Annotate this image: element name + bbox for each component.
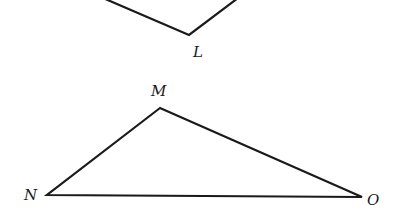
vertex-label-m: M bbox=[150, 82, 167, 100]
vertex-label-o: O bbox=[367, 191, 379, 209]
geometry-figure: L M N O bbox=[0, 0, 410, 220]
partial-shape-edges bbox=[103, 0, 238, 35]
vertex-label-l: L bbox=[192, 43, 203, 61]
triangle-mno bbox=[47, 108, 362, 197]
vertex-label-n: N bbox=[23, 186, 38, 204]
